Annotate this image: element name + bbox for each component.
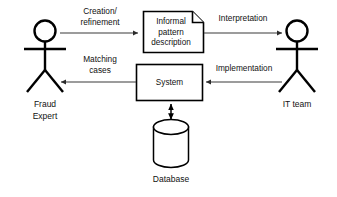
node-system: System	[137, 65, 203, 101]
edge-interpretation-label: Interpretation	[219, 13, 268, 23]
cylinder-top-ellipse	[154, 120, 189, 135]
actor-leg-right-icon	[297, 70, 315, 92]
edge-creation-label-line2: refinement	[80, 17, 120, 27]
node-system-label: System	[156, 78, 183, 87]
edge-interpretation: Interpretation	[204, 13, 282, 33]
actor-head-icon	[287, 21, 308, 42]
node-document-label-line2: pattern	[158, 28, 184, 37]
actor-fraud-expert-label-line2: Expert	[33, 111, 58, 121]
actor-leg-left-icon	[279, 70, 297, 92]
edge-implementation-label: Implementation	[216, 63, 273, 73]
node-database: Database	[153, 120, 190, 185]
actor-fraud-expert: Fraud Expert	[24, 21, 66, 122]
diagram-canvas: Fraud Expert IT team Informal pattern de…	[0, 0, 337, 197]
actor-head-icon	[35, 21, 56, 42]
edge-creation-refinement: Creation/ refinement	[60, 6, 138, 33]
actor-fraud-expert-label-line1: Fraud	[34, 99, 56, 109]
process-flow-diagram: Fraud Expert IT team Informal pattern de…	[0, 0, 337, 197]
node-informal-pattern-description: Informal pattern description	[144, 12, 204, 53]
node-database-label: Database	[153, 174, 190, 184]
edge-matching-cases: Matching cases	[61, 54, 136, 82]
node-document-label-line1: Informal	[156, 17, 186, 26]
actor-leg-right-icon	[45, 70, 63, 92]
node-document-label-line3: description	[151, 38, 191, 47]
actor-it-team: IT team	[276, 21, 318, 110]
edge-implementation: Implementation	[206, 63, 282, 82]
actor-leg-left-icon	[27, 70, 45, 92]
edge-matching-label-line1: Matching	[83, 54, 117, 64]
actor-it-team-label-line1: IT team	[283, 99, 312, 109]
edge-creation-label-line1: Creation/	[83, 6, 117, 16]
edge-matching-label-line2: cases	[89, 65, 111, 75]
